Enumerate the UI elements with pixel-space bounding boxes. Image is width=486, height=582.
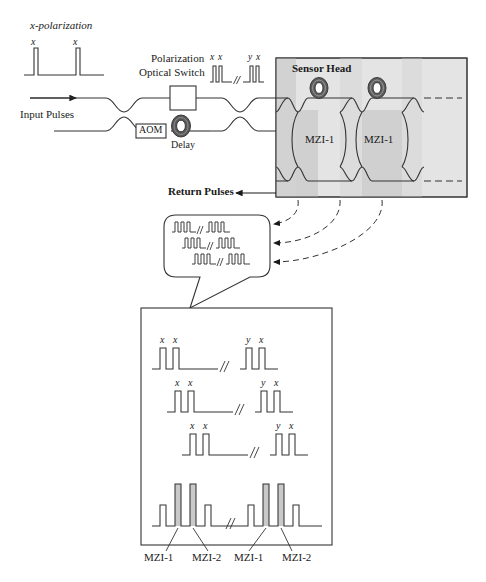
delay-label: Delay [171,139,195,151]
sensor-coil-icon-1 [310,78,328,99]
sensor-coil-icon-2 [368,78,386,99]
mzi-label-sensor-1: MZI-1 [305,133,334,146]
optical-switch-label-line2: Optical Switch [139,66,205,79]
trace-1-label-x3: x [259,334,263,346]
sensor-head-panel [276,58,467,197]
mzi-bottom-label-2: MZI-2 [192,551,221,564]
trace-3-label-x3: x [289,420,293,432]
input-pulse-label-1: x [31,36,35,48]
trace-2-label-x2: x [188,377,192,389]
mzi-label-sensor-2: MZI-1 [364,133,393,146]
trace-1-label-x2: x [173,334,177,346]
polarization-label: x-polarization [30,19,92,32]
input-pulses-label: Input Pulses [20,108,74,121]
mzi-bottom-label-1: MZI-1 [144,551,173,564]
aom-label: AOM [139,124,162,136]
input-pulse-trace [24,48,104,75]
delay-coil-icon [172,115,191,137]
figure-canvas: x-polarization x x Input Pulses Polariza… [0,0,486,582]
mzi-bottom-label-4: MZI-2 [282,551,311,564]
switch-out-label-2a: y [248,52,252,63]
switch-out-label-1b: x [218,52,222,63]
return-pulse-callout [164,215,270,308]
trace-3-label-x2: x [203,420,207,432]
switch-output-pulse-trace [210,66,264,84]
callout-dashed-connectors [274,200,382,262]
trace-2-label-x3: x [274,377,278,389]
mzi-bottom-label-3: MZI-1 [234,551,263,564]
return-pulses-label: Return Pulses [168,185,234,198]
trace-3-label-y1: y [276,420,280,432]
optical-switch-box [170,86,196,110]
sensor-head-label: Sensor Head [292,62,351,75]
trace-2-label-x1: x [175,377,179,389]
switch-out-label-1a: x [210,52,214,63]
switch-out-label-2b: x [256,52,260,63]
trace-2-label-y1: y [261,377,265,389]
optical-switch-label-line1: Polarization [151,52,204,65]
trace-1-label-y1: y [246,334,250,346]
trace-3-label-x1: x [190,420,194,432]
trace-1-label-x1: x [160,334,164,346]
diagram-artwork [0,0,486,582]
input-pulse-label-2: x [73,36,77,48]
detail-panel [141,308,332,545]
